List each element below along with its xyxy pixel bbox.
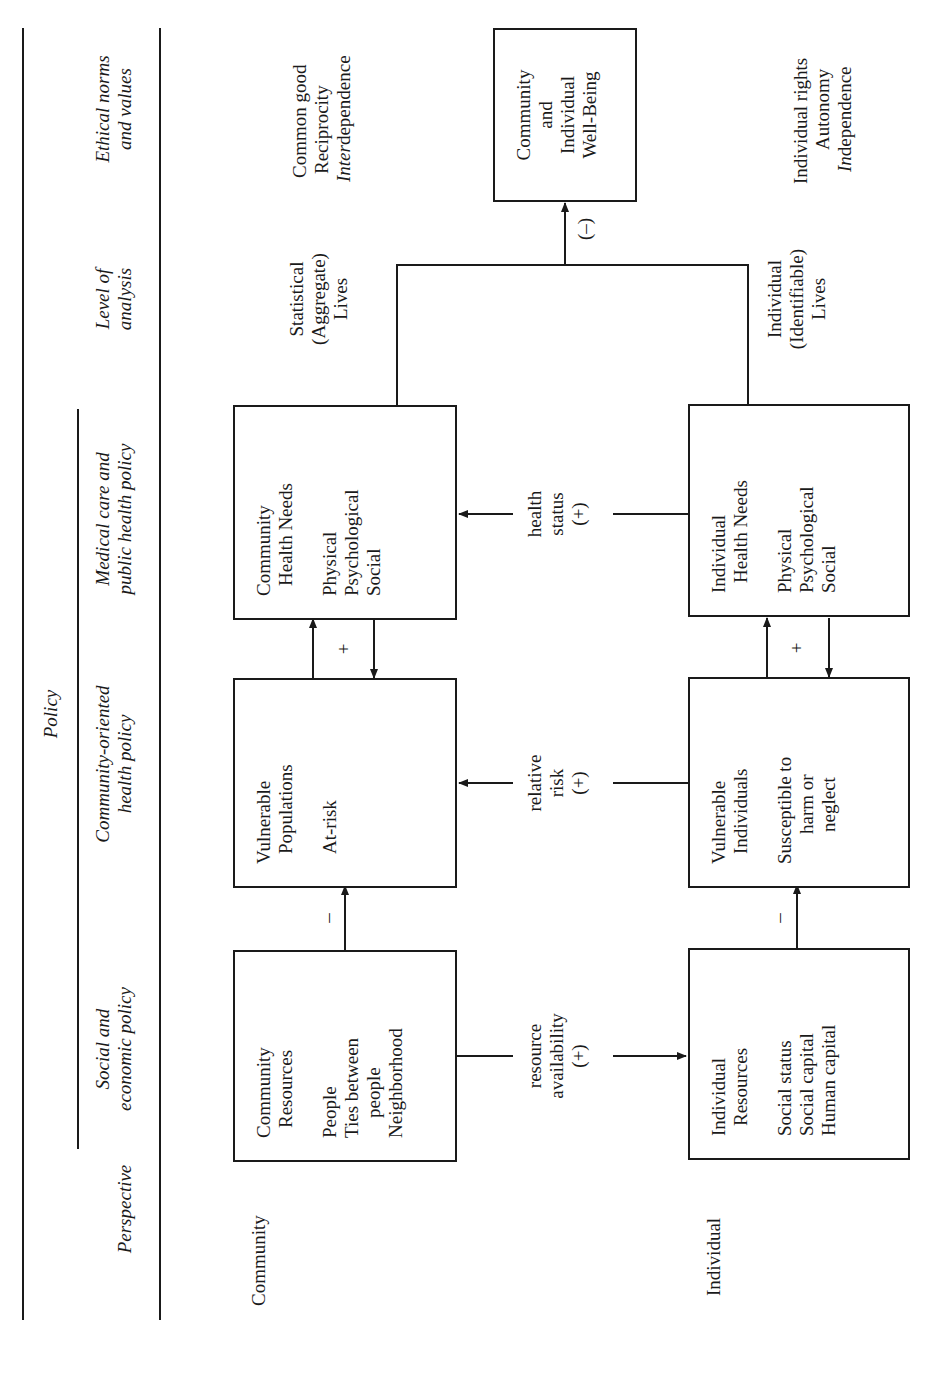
box-vulnerable-individuals: Vulnerable Individuals Susceptible to ha… bbox=[688, 677, 910, 888]
level-community: Statistical (Aggregate) Lives bbox=[286, 234, 352, 364]
box-community-health-needs: Community Health Needs Physical Psycholo… bbox=[233, 405, 457, 620]
box-community-resources: Community Resources People Ties between … bbox=[233, 950, 457, 1162]
sign-individual-vulnerable-health: + bbox=[786, 638, 808, 658]
box-wellbeing: Community and Individual Well-Being bbox=[493, 28, 637, 202]
sign-individual-resources-vulnerable: – bbox=[768, 908, 790, 928]
sign-wellbeing: (–) bbox=[574, 209, 596, 249]
box-vulnerable-populations: Vulnerable Populations At-risk bbox=[233, 678, 457, 888]
label-resource-availability: resource availability (+) bbox=[524, 996, 590, 1116]
label-health-status: health status (+) bbox=[524, 454, 590, 574]
ethics-community: Common good Reciprocity Interdependence bbox=[289, 55, 355, 182]
sign-community-vulnerable-health: + bbox=[333, 639, 355, 659]
box-individual-health-needs: Individual Health Needs Physical Psychol… bbox=[688, 404, 910, 617]
diagram-stage: Policy Perspective Social and economic p… bbox=[0, 0, 926, 1374]
box-individual-resources: Individual Resources Social status Socia… bbox=[688, 948, 910, 1160]
label-relative-risk: relative risk (+) bbox=[524, 723, 590, 843]
sign-community-resources-vulnerable: – bbox=[317, 908, 339, 928]
ethics-individual: Individual rights Autonomy Independence bbox=[790, 58, 856, 184]
level-individual: Individual (Identifiable) Lives bbox=[764, 224, 830, 374]
